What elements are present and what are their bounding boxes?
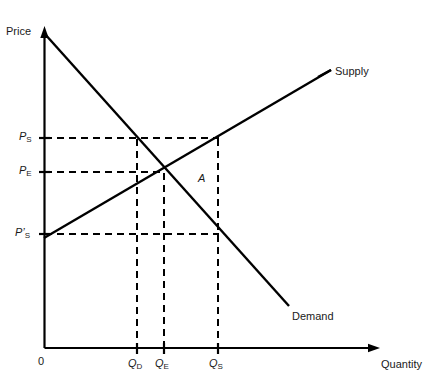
- quantity-supply-base: Q: [209, 357, 218, 369]
- x-axis-arrowhead: [368, 344, 380, 352]
- demand-curve-label: Demand: [292, 311, 334, 322]
- quantity-demand-subscript: D: [137, 362, 143, 371]
- supply-demand-chart: Price Quantity 0 Supply Demand A PS PE P…: [0, 0, 431, 388]
- x-axis-label: Quantity: [381, 359, 422, 370]
- supply-curve-label: Supply: [335, 66, 369, 77]
- x-axis: [45, 344, 381, 352]
- quantity-equilibrium-subscript: E: [164, 362, 169, 371]
- quantity-equilibrium-base: Q: [155, 357, 164, 369]
- x-tick-label-quantity-equilibrium: QE: [155, 358, 169, 371]
- origin-label: 0: [38, 356, 44, 367]
- y-tick-label-price-low: P’S: [15, 227, 30, 240]
- x-tick-label-quantity-supply: QS: [209, 358, 223, 371]
- price-high-subscript: S: [26, 135, 31, 144]
- y-axis-label: Price: [6, 26, 31, 37]
- supply-curve: [44, 70, 331, 238]
- quantity-supply-subscript: S: [218, 362, 223, 371]
- chart-canvas: [0, 0, 431, 388]
- y-axis: [40, 26, 48, 348]
- y-tick-label-price-equilibrium: PE: [19, 165, 32, 178]
- quantity-demand-base: Q: [128, 357, 137, 369]
- x-tick-label-quantity-demand: QD: [128, 358, 142, 371]
- price-equilibrium-subscript: E: [26, 169, 31, 178]
- equilibrium-point-label: A: [198, 173, 205, 184]
- y-tick-label-price-high: PS: [19, 131, 32, 144]
- demand-curve: [44, 33, 289, 306]
- supply-label-leader: [318, 70, 331, 77]
- price-low-subscript: S: [25, 231, 30, 240]
